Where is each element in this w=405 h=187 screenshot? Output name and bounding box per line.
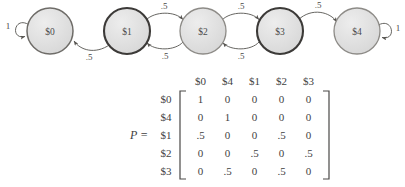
edge-s3-to-s2-label: .5 [238, 51, 245, 61]
matrix-cell-4-0: 0 [187, 162, 214, 180]
self-loop-s0: 1 [6, 21, 29, 37]
edge-s1-to-s0-label: .5 [86, 52, 93, 62]
matrix-row-header-0: $0 [154, 90, 178, 108]
matrix-cell-3-4: .5 [295, 144, 322, 162]
table-row: $3 0 .5 0 .5 0 [124, 162, 331, 180]
matrix-left-bracket [178, 90, 187, 180]
matrix-cell-1-4: 0 [295, 108, 322, 126]
edge-s1-to-s2-label: .5 [161, 1, 168, 11]
matrix-cell-1-1: 1 [214, 108, 241, 126]
state-node-s4[interactable]: $4 [334, 8, 380, 54]
matrix-col-header-4: $3 [295, 72, 322, 90]
matrix-row-header-2: $1 [154, 126, 178, 144]
matrix-row-header-3: $2 [154, 144, 178, 162]
matrix-cell-4-3: .5 [268, 162, 295, 180]
matrix-cell-3-2: .5 [241, 144, 268, 162]
matrix-right-bracket [322, 90, 331, 180]
matrix-p-label: P = [124, 90, 154, 180]
state-node-s3-label: $3 [275, 27, 285, 37]
matrix-cell-1-3: 0 [268, 108, 295, 126]
matrix-row-header-4: $3 [154, 162, 178, 180]
state-node-s0-label: $0 [45, 27, 55, 37]
transition-matrix-block: $0 $4 $1 $2 $3 P = $0 1 0 0 0 [0, 70, 405, 187]
matrix-cell-3-0: 0 [187, 144, 214, 162]
matrix-cell-0-1: 0 [214, 90, 241, 108]
edge-s3-to-s2: .5 [223, 42, 259, 61]
matrix-column-header-row: $0 $4 $1 $2 $3 [124, 72, 331, 90]
edge-s2-to-s1-label: .5 [162, 51, 169, 61]
transition-matrix-table: $0 $4 $1 $2 $3 P = $0 1 0 0 0 [124, 72, 331, 180]
edge-s3-to-s4-label: .5 [315, 0, 322, 10]
self-loop-s0-label: 1 [6, 21, 11, 31]
matrix-cell-2-2: 0 [241, 126, 268, 144]
matrix-cell-0-0: 1 [187, 90, 214, 108]
edge-s2-to-s3: .5 [222, 1, 259, 20]
state-node-s1[interactable]: $1 [104, 8, 150, 54]
state-node-s2-label: $2 [198, 27, 208, 37]
state-node-s2[interactable]: $2 [180, 8, 226, 54]
matrix-col-header-1: $4 [214, 72, 241, 90]
matrix-cell-3-3: 0 [268, 144, 295, 162]
state-node-s1-label: $1 [122, 27, 132, 37]
edge-s1-to-s0: .5 [74, 41, 110, 62]
matrix-col-header-2: $1 [241, 72, 268, 90]
table-row: $1 .5 0 0 .5 0 [124, 126, 331, 144]
matrix-cell-0-3: 0 [268, 90, 295, 108]
edge-s2-to-s1: .5 [147, 42, 183, 61]
matrix-corner-spacer [124, 72, 154, 90]
matrix-cell-0-4: 0 [295, 90, 322, 108]
matrix-col-header-0: $0 [187, 72, 214, 90]
table-row: P = $0 1 0 0 0 0 [124, 90, 331, 108]
matrix-cell-2-0: .5 [187, 126, 214, 144]
state-node-s4-label: $4 [352, 27, 362, 37]
self-loop-s4-label: 1 [396, 23, 401, 33]
table-row: $4 0 1 0 0 0 [124, 108, 331, 126]
matrix-col-header-3: $2 [268, 72, 295, 90]
matrix-bracket-spacer-right [322, 72, 331, 90]
matrix-cell-2-1: 0 [214, 126, 241, 144]
edge-s3-to-s4: .5 [298, 0, 337, 22]
edge-s1-to-s2: .5 [146, 1, 183, 20]
state-node-s3[interactable]: $3 [257, 8, 303, 54]
matrix-bracket-spacer-left [178, 72, 187, 90]
matrix-cell-4-2: 0 [241, 162, 268, 180]
self-loop-s4: 1 [379, 23, 401, 38]
matrix-cell-0-2: 0 [241, 90, 268, 108]
edge-s2-to-s3-label: .5 [238, 1, 245, 11]
table-row: $2 0 0 .5 0 .5 [124, 144, 331, 162]
matrix-cell-4-4: 0 [295, 162, 322, 180]
matrix-cell-1-0: 0 [187, 108, 214, 126]
markov-chain-diagram: 1 .5 .5 .5 .5 .5 .5 1 $0 $1 [0, 0, 405, 70]
matrix-row-header-1: $4 [154, 108, 178, 126]
matrix-cell-4-1: .5 [214, 162, 241, 180]
matrix-corner-spacer-2 [154, 72, 178, 90]
state-node-s0[interactable]: $0 [27, 8, 73, 54]
matrix-cell-2-4: 0 [295, 126, 322, 144]
matrix-cell-3-1: 0 [214, 144, 241, 162]
matrix-cell-2-3: .5 [268, 126, 295, 144]
matrix-cell-1-2: 0 [241, 108, 268, 126]
